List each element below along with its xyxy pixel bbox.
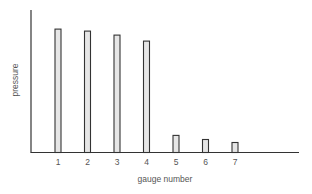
bar-gauge-5 (173, 135, 179, 152)
x-tick-label: 4 (144, 157, 149, 167)
bar-gauge-3 (114, 35, 120, 152)
bar-gauge-2 (85, 31, 91, 152)
bar-chart: 1234567 gauge number pressure (0, 0, 312, 194)
chart-canvas: 1234567 gauge number pressure (0, 0, 312, 194)
bar-gauge-1 (55, 29, 61, 152)
bar-gauge-6 (203, 140, 209, 153)
x-tick-label: 3 (115, 157, 120, 167)
bars-group (55, 29, 238, 152)
x-axis-label: gauge number (138, 174, 193, 184)
x-tick-labels: 1234567 (56, 157, 238, 167)
bar-gauge-7 (232, 143, 238, 153)
x-tick-label: 1 (56, 157, 61, 167)
bar-gauge-4 (144, 41, 150, 152)
x-tick-label: 5 (174, 157, 179, 167)
x-tick-label: 7 (233, 157, 238, 167)
x-tick-label: 2 (85, 157, 90, 167)
x-tick-label: 6 (203, 157, 208, 167)
y-axis-label: pressure (10, 63, 20, 96)
